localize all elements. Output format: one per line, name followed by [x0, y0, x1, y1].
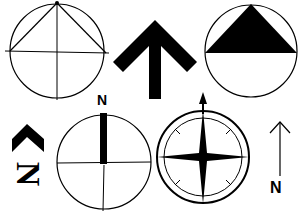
north-symbol-chevron-n-icon: N	[8, 122, 48, 197]
north-symbol-compass-rose-icon	[155, 90, 250, 214]
north-symbol-simple-arrow-icon	[265, 120, 295, 180]
svg-text:N: N	[10, 162, 47, 187]
north-label-simple-arrow: N	[270, 180, 282, 196]
north-symbol-circle-triangle-icon	[0, 0, 110, 100]
north-symbol-circle-bar-icon	[55, 105, 155, 213]
north-symbol-filled-triangle-icon	[200, 0, 298, 100]
